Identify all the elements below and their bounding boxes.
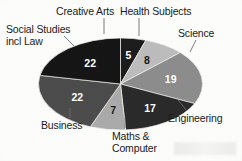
slice-label-engineering: Engineering — [168, 113, 222, 125]
slice-value-label: 5 — [126, 49, 132, 61]
slice-label-business: Business — [41, 120, 82, 132]
slice-value-label: 19 — [165, 73, 177, 85]
slice-value-label: 22 — [72, 91, 84, 103]
slice-label-social-studies-line1: Social Studies — [6, 24, 70, 36]
leader-line-social-studies — [64, 36, 74, 46]
leader-line-science — [190, 40, 196, 52]
pie-chart-figure: 58191772222 Creative Arts Health Subject… — [0, 0, 242, 161]
slice-label-social-studies-line2: incl Law — [6, 36, 43, 48]
slice-value-label: 17 — [144, 102, 156, 114]
slice-value-label: 8 — [144, 54, 150, 66]
scan-smudge-artifact — [174, 142, 236, 155]
slice-label-maths-computer-line1: Maths & — [112, 131, 149, 143]
slice-label-creative-arts: Creative Arts — [56, 6, 114, 18]
slice-label-maths-computer-line2: Computer — [112, 143, 157, 155]
slice-label-science: Science — [178, 28, 214, 40]
slice-value-label: 22 — [84, 57, 96, 69]
slice-value-label: 7 — [110, 104, 116, 116]
slice-label-health-subjects: Health Subjects — [120, 6, 191, 18]
